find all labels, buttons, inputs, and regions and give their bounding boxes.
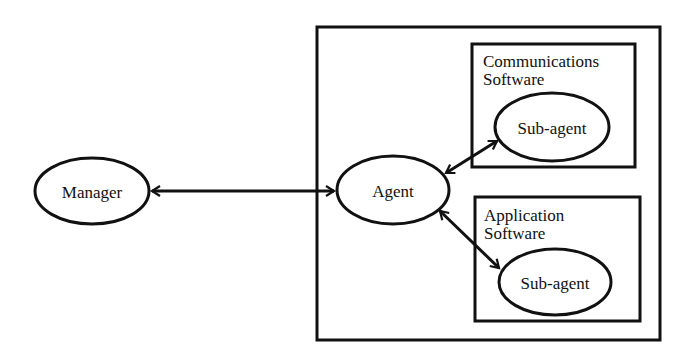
diagram-canvas: Manager Agent Communications Software Su… (0, 0, 691, 361)
manager-label: Manager (62, 183, 122, 202)
comms-box-title-line1: Communications (483, 52, 599, 71)
app-subagent-label: Sub-agent (521, 274, 590, 293)
comms-box-title-line2: Software (483, 70, 544, 89)
comms-subagent-label: Sub-agent (518, 119, 587, 138)
app-box-title-line1: Application (484, 206, 564, 225)
app-box-title-line2: Software (484, 224, 545, 243)
agent-label: Agent (372, 182, 414, 201)
